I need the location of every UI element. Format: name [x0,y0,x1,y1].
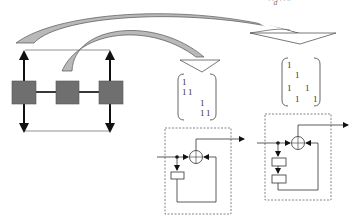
matrix-2: 1 1 1 1 1 1 [282,58,320,106]
svg-text:1: 1 [313,94,318,104]
matrix-1: 1 1 1 1 1 1 [178,74,216,120]
svg-text:1: 1 [295,94,300,104]
svg-text:1: 1 [188,87,193,97]
curved-arrow-inner [62,30,220,72]
caption-fragment: ' 'd ' ' '' [268,0,291,7]
svg-text:1: 1 [287,83,292,93]
node-left [12,81,36,104]
svg-text:1: 1 [206,108,211,118]
node-right [99,81,123,104]
svg-text:1: 1 [287,60,292,70]
svg-text:1: 1 [200,98,205,108]
delay-box-2 [272,175,286,183]
delay-box [171,172,184,179]
block-diagram-1 [157,128,244,214]
svg-text:1: 1 [305,83,310,93]
delay-box-1 [272,158,286,166]
block-diagram-2 [257,114,348,200]
node-center [56,81,79,104]
svg-text:1: 1 [182,77,187,87]
svg-text:1: 1 [182,87,187,97]
diagram-canvas: ' 'd ' ' '' 1 1 1 1 1 1 [0,0,362,223]
svg-text:1: 1 [295,70,300,80]
svg-text:1: 1 [200,108,205,118]
